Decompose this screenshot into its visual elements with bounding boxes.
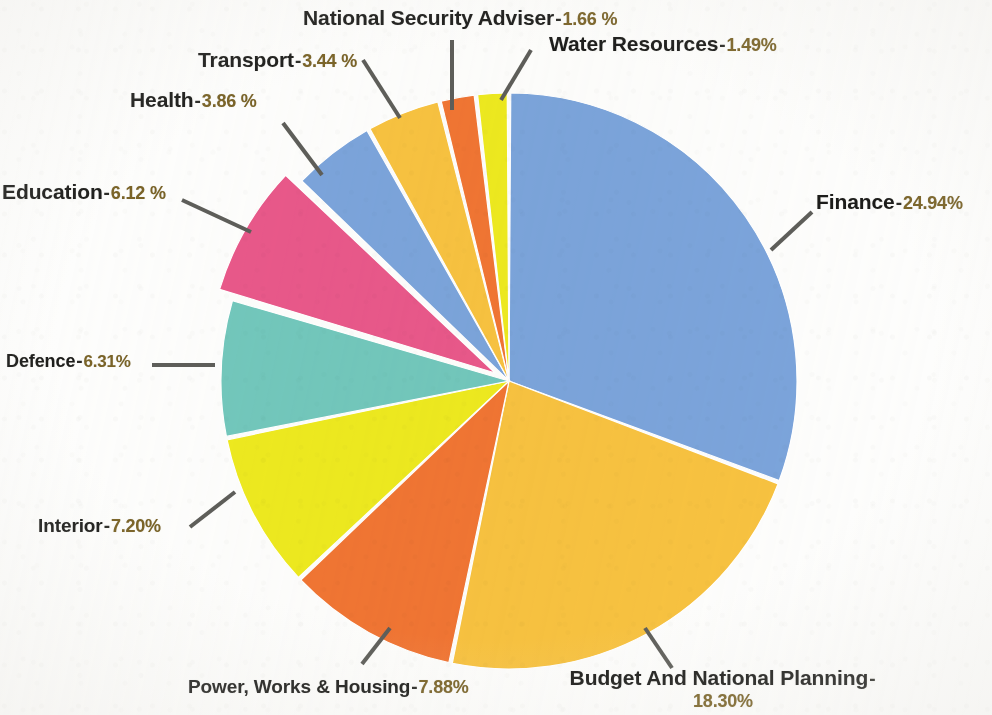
slice-label-percent: 7.88% — [419, 677, 469, 697]
slice-label-name: Transport — [198, 48, 294, 71]
slice-label-interior: Interior-7.20% — [38, 515, 161, 537]
slice-label-name: Budget And National Planning — [570, 666, 869, 689]
leader-line-finance — [771, 212, 812, 250]
slice-label-health: Health-3.86 % — [130, 88, 257, 112]
slice-label-percent: 3.86 % — [202, 91, 257, 111]
slice-label-name: Interior — [38, 515, 103, 536]
leader-line-interior — [190, 492, 235, 527]
leader-line-transport — [363, 60, 400, 118]
slice-label-percent: 1.66 % — [562, 9, 617, 29]
slice-label-education: Education-6.12 % — [2, 180, 166, 204]
slice-label-name: Power, Works & Housing — [188, 676, 410, 697]
slice-label-name: Finance — [816, 190, 895, 213]
slice-label-separator: - — [895, 192, 903, 213]
pie-slice-group — [220, 93, 797, 669]
slice-label-separator: - — [294, 50, 302, 71]
slice-label-name: National Security Adviser — [303, 6, 554, 29]
slice-label-separator: - — [103, 182, 111, 203]
slice-label-separator: - — [410, 676, 418, 697]
leader-line-education — [182, 200, 251, 232]
slice-label-transport: Transport-3.44 % — [198, 48, 357, 72]
slice-label-power-works-housing: Power, Works & Housing-7.88% — [188, 676, 469, 698]
slice-label-name: Health — [130, 88, 194, 111]
slice-label-percent: 6.12 % — [111, 183, 166, 203]
slice-label-percent: 1.49% — [727, 35, 777, 55]
slice-label-finance: Finance-24.94% — [816, 190, 963, 214]
slice-label-separator: - — [868, 668, 876, 689]
slice-label-name: Education — [2, 180, 103, 203]
slice-label-percent: 6.31% — [84, 352, 131, 371]
slice-label-name: Water Resources — [549, 32, 718, 55]
slice-label-name: Defence — [6, 351, 75, 371]
slice-label-percent: 3.44 % — [302, 51, 357, 71]
slice-label-national-security-adviser: National Security Adviser-1.66 % — [303, 6, 617, 30]
slice-label-percent: 18.30% — [563, 691, 883, 712]
slice-label-water-resources: Water Resources-1.49% — [549, 32, 777, 56]
pie-chart-figure: National Security Adviser-1.66 % Water R… — [0, 0, 992, 715]
slice-label-separator: - — [194, 90, 202, 111]
slice-label-defence: Defence-6.31% — [6, 350, 131, 372]
leader-line-budget-and-national-planning — [645, 628, 672, 668]
slice-label-separator: - — [718, 34, 726, 55]
slice-label-percent: 7.20% — [111, 516, 161, 536]
slice-label-budget-and-national-planning: Budget And National Planning-18.30% — [563, 666, 883, 712]
slice-label-separator: - — [75, 350, 83, 371]
slice-label-percent: 24.94% — [903, 193, 963, 213]
slice-label-separator: - — [103, 515, 111, 536]
leader-line-health — [283, 123, 322, 175]
